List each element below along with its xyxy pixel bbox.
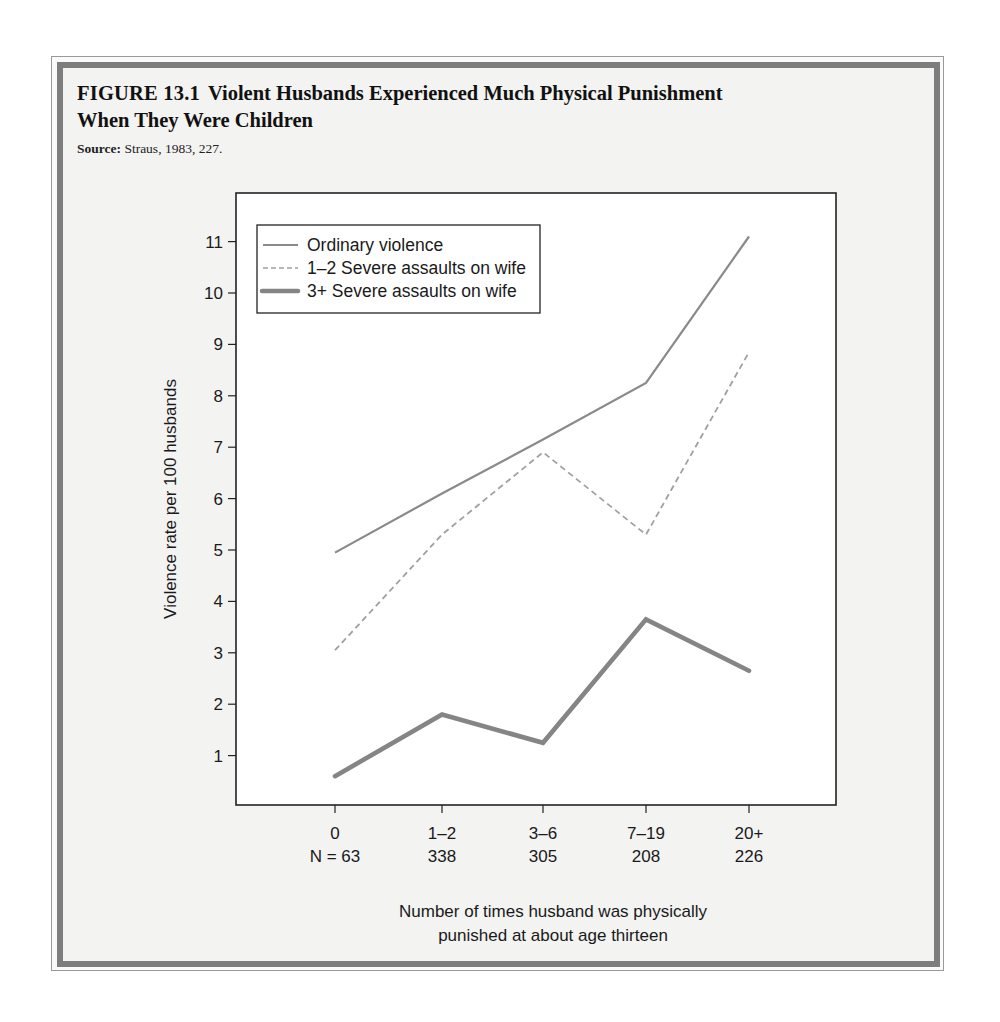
y-tick-label: 3 xyxy=(214,644,223,663)
x-axis: 0N = 631–23383–63057–1920820+226 xyxy=(310,805,764,866)
x-axis-title-line1: Number of times husband was physically xyxy=(399,902,708,921)
y-tick-label: 2 xyxy=(214,695,223,714)
legend-label-ordinary: Ordinary violence xyxy=(307,235,443,255)
legend-label-3plus-severe: 3+ Severe assaults on wife xyxy=(307,281,517,301)
y-tick-label: 9 xyxy=(214,335,223,354)
x-tick-label: 20+ xyxy=(735,824,764,843)
x-axis-title-line2: punished at about age thirteen xyxy=(438,926,668,945)
y-tick-label: 5 xyxy=(214,541,223,560)
x-tick-sample-size: 208 xyxy=(632,847,660,866)
y-tick-label: 6 xyxy=(214,490,223,509)
y-tick-label: 11 xyxy=(205,233,223,252)
x-tick-sample-size: 305 xyxy=(529,847,557,866)
x-tick-label: 3–6 xyxy=(529,824,557,843)
legend: Ordinary violence 1–2 Severe assaults on… xyxy=(257,225,540,313)
x-tick-label: 0 xyxy=(330,824,339,843)
y-tick-label: 10 xyxy=(204,284,223,303)
y-axis: 1234567891011 xyxy=(204,233,236,766)
y-tick-label: 4 xyxy=(214,592,223,611)
x-tick-label: 1–2 xyxy=(428,824,456,843)
line-chart: 1234567891011 0N = 631–23383–63057–19208… xyxy=(0,0,1000,1022)
x-tick-sample-size: 226 xyxy=(735,847,763,866)
y-tick-label: 1 xyxy=(214,747,223,766)
y-tick-label: 8 xyxy=(214,387,223,406)
legend-label-1-2-severe: 1–2 Severe assaults on wife xyxy=(307,258,526,278)
x-tick-label: 7–19 xyxy=(627,824,665,843)
x-tick-sample-size: N = 63 xyxy=(310,847,361,866)
y-axis-title: Violence rate per 100 husbands xyxy=(161,379,180,619)
x-tick-sample-size: 338 xyxy=(428,847,456,866)
y-tick-label: 7 xyxy=(214,438,223,457)
